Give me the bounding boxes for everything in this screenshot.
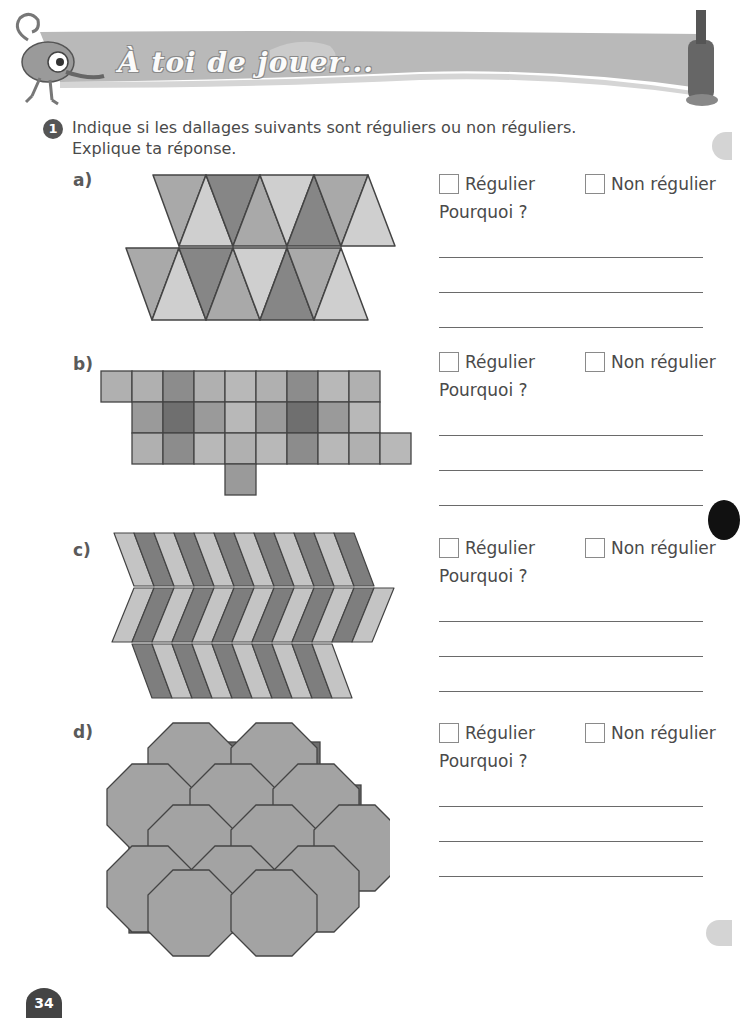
instruction-line: Indique si les dallages suivants sont ré… [72,117,576,138]
page-number: 34 [26,988,62,1018]
checkbox-regulier[interactable]: Régulier [439,538,535,558]
checkbox-regulier[interactable]: Régulier [439,174,535,194]
option-label: Non régulier [611,174,716,194]
answer-line[interactable] [439,806,703,807]
answer-line[interactable] [439,621,703,622]
checkbox-box[interactable] [585,723,605,743]
answer-line[interactable] [439,292,703,293]
option-label: Non régulier [611,723,716,743]
answer-line[interactable] [439,505,703,506]
option-label: Régulier [465,538,535,558]
checkbox-box[interactable] [439,174,459,194]
answer-line[interactable] [439,435,703,436]
answer-block-a: Régulier Non régulier Pourquoi ? [439,174,716,328]
checkbox-box[interactable] [585,174,605,194]
answer-line[interactable] [439,257,703,258]
option-label: Non régulier [611,538,716,558]
why-label: Pourquoi ? [439,380,716,400]
option-label: Régulier [465,723,535,743]
answer-block-d: Régulier Non régulier Pourquoi ? [439,723,716,877]
checkbox-box[interactable] [585,538,605,558]
checkbox-box[interactable] [439,352,459,372]
side-tab [712,132,732,160]
item-label: c) [73,540,91,560]
octagon-tiling-figure [100,718,390,958]
checkbox-regulier[interactable]: Régulier [439,352,535,372]
checkbox-non-regulier[interactable]: Non régulier [585,174,716,194]
answer-line[interactable] [439,876,703,877]
page-title: À toi de jouer... [118,46,374,79]
checkbox-non-regulier[interactable]: Non régulier [585,723,716,743]
answer-line[interactable] [439,470,703,471]
option-label: Régulier [465,174,535,194]
checkbox-non-regulier[interactable]: Non régulier [585,352,716,372]
checkbox-regulier[interactable]: Régulier [439,723,535,743]
exercise-number: 1 [43,119,63,139]
answer-line[interactable] [439,691,703,692]
why-label: Pourquoi ? [439,751,716,771]
answer-block-c: Régulier Non régulier Pourquoi ? [439,538,716,692]
triangle-tiling-figure [120,170,420,330]
answer-line[interactable] [439,327,703,328]
item-label: a) [73,170,92,190]
checkbox-box[interactable] [439,538,459,558]
why-label: Pourquoi ? [439,202,716,222]
paint-tube-icon [686,10,718,106]
instruction-line: Explique ta réponse. [72,138,576,159]
checkbox-box[interactable] [585,352,605,372]
answer-line[interactable] [439,656,703,657]
item-label: b) [73,354,93,374]
checkbox-box[interactable] [439,723,459,743]
option-label: Régulier [465,352,535,372]
exercise-instruction: Indique si les dallages suivants sont ré… [72,117,576,159]
square-tiling-figure [98,368,416,500]
option-label: Non régulier [611,352,716,372]
answer-line[interactable] [439,841,703,842]
why-label: Pourquoi ? [439,566,716,586]
item-label: d) [73,722,93,742]
chevron-tiling-figure [110,530,400,702]
answer-block-b: Régulier Non régulier Pourquoi ? [439,352,716,506]
side-tab [706,920,732,946]
binding-hole [708,500,740,540]
checkbox-non-regulier[interactable]: Non régulier [585,538,716,558]
